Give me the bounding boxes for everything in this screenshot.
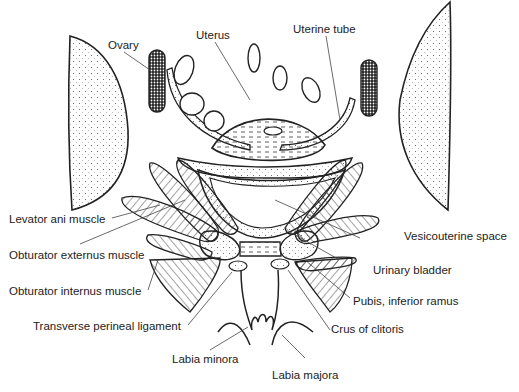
label-crus-of-clitoris: Crus of clitoris <box>331 324 404 336</box>
right-ilium <box>399 2 451 210</box>
left-obturator-internus <box>150 258 220 312</box>
left-pubis <box>200 231 240 260</box>
label-obturator-internus-muscle: Obturator internus muscle <box>9 286 141 298</box>
label-pubis-inferior-ramus: Pubis, inferior ramus <box>353 296 458 308</box>
anatomy-illustration <box>0 0 519 392</box>
label-ovary: Ovary <box>108 40 139 52</box>
label-levator-ani-muscle: Levator ani muscle <box>9 214 106 226</box>
right-pubis <box>280 231 318 260</box>
uterus <box>212 119 325 160</box>
label-labia-majora: Labia majora <box>272 370 338 382</box>
left-ilium <box>69 36 128 210</box>
label-uterine-tube: Uterine tube <box>293 24 356 36</box>
right-crus-of-clitoris <box>271 259 289 269</box>
label-vesicouterine-space: Vesicouterine space <box>404 231 507 243</box>
label-uterus: Uterus <box>196 30 230 42</box>
labia-majora-left <box>218 323 250 345</box>
vulva-outline <box>241 270 279 330</box>
pubic-symphysis <box>240 242 281 256</box>
right-obturator-internus <box>296 258 352 312</box>
label-labia-minora: Labia minora <box>172 354 238 366</box>
left-ovary <box>149 50 165 112</box>
label-transverse-perineal-ligament: Transverse perineal ligament <box>33 321 181 333</box>
left-crus-of-clitoris <box>229 261 247 271</box>
labia-majora-right <box>272 322 313 345</box>
pelvic-cross-section-diagram: Ovary Uterus Uterine tube Levator ani mu… <box>0 0 519 392</box>
label-urinary-bladder: Urinary bladder <box>373 265 452 277</box>
right-ovary <box>361 60 377 116</box>
label-obturator-externus-muscle: Obturator externus muscle <box>9 250 145 262</box>
